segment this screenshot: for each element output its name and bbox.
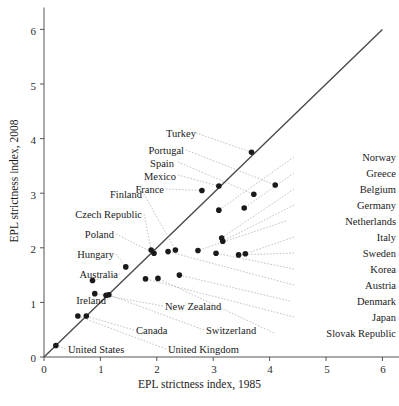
point-label-new-zealand: New Zealand <box>165 301 221 312</box>
data-point-belgium <box>219 235 225 241</box>
data-point-greece <box>241 205 247 211</box>
y-tick-5: 5 <box>18 80 36 92</box>
point-label-hungary: Hungary <box>14 249 114 260</box>
data-point-italy <box>243 251 249 257</box>
point-label-germany: Germany <box>296 200 396 211</box>
point-label-united-states: United States <box>68 344 124 355</box>
leader-line-greece <box>244 173 294 208</box>
y-tick-4: 4 <box>18 134 36 146</box>
point-label-slovak-republic: Slovak Republic <box>276 328 396 339</box>
point-label-finland: Finland <box>44 189 142 200</box>
x-tick-3: 3 <box>205 363 223 375</box>
point-label-sweden: Sweden <box>296 248 396 259</box>
point-label-mexico: Mexico <box>76 171 176 182</box>
point-label-canada: Canada <box>136 325 168 336</box>
leader-line-mexico <box>178 175 219 186</box>
leader-line-france <box>166 189 202 190</box>
data-point-sweden <box>236 252 242 258</box>
point-label-greece: Greece <box>296 168 396 179</box>
point-label-denmark: Denmark <box>292 296 396 307</box>
data-point-norway <box>216 207 222 213</box>
leader-line-denmark <box>179 275 290 301</box>
x-tick-4: 4 <box>261 363 279 375</box>
data-point-hungary <box>123 264 129 270</box>
point-label-norway: Norway <box>296 152 396 163</box>
leader-line-korea <box>216 253 294 269</box>
data-point-austria <box>165 249 171 255</box>
data-point-korea <box>213 250 219 256</box>
data-point-united-kingdom <box>75 313 81 319</box>
leader-line-italy <box>245 237 294 254</box>
point-label-portugal: Portugal <box>76 145 184 156</box>
x-tick-0: 0 <box>35 363 53 375</box>
data-point-japan <box>143 276 149 282</box>
point-label-switzerland: Switzerland <box>206 325 256 336</box>
data-point-slovak-republic <box>155 276 161 282</box>
data-point-denmark <box>177 272 183 278</box>
point-label-italy: Italy <box>296 232 396 243</box>
x-tick-5: 5 <box>318 363 336 375</box>
data-point-czech-republic <box>148 247 154 253</box>
point-label-turkey: Turkey <box>96 128 196 139</box>
leader-line-austria <box>168 252 294 285</box>
data-point-switzerland <box>106 292 112 298</box>
x-tick-2: 2 <box>148 363 166 375</box>
data-point-netherlands <box>195 248 201 254</box>
point-label-japan: Japan <box>296 312 396 323</box>
x-tick-6: 6 <box>374 363 392 375</box>
point-label-czech-republic: Czech Republic <box>30 209 142 220</box>
point-label-poland: Poland <box>18 229 114 240</box>
data-point-finland <box>173 247 179 253</box>
point-label-austria: Austria <box>296 280 396 291</box>
point-label-spain: Spain <box>76 158 174 169</box>
leader-line-turkey <box>196 133 252 152</box>
data-point-france <box>199 188 205 194</box>
leader-line-norway <box>219 157 294 210</box>
data-point-canada <box>84 313 90 319</box>
point-label-ireland: Ireland <box>14 295 106 306</box>
point-label-australia: Australia <box>14 269 118 280</box>
data-point-portugal <box>272 182 278 188</box>
x-axis-title: EPL strictness index, 1985 <box>0 378 399 390</box>
leader-line-czech-republic <box>144 214 151 250</box>
y-tick-0: 0 <box>18 352 36 364</box>
leader-line-canada <box>86 316 134 330</box>
point-label-united-kingdom: United Kingdom <box>168 344 239 355</box>
y-tick-3: 3 <box>18 189 36 201</box>
leader-line-netherlands <box>198 221 286 251</box>
leader-line-finland <box>144 194 175 250</box>
data-point-united-states <box>53 343 59 349</box>
point-label-netherlands: Netherlands <box>288 216 396 227</box>
point-label-belgium: Belgium <box>296 184 396 195</box>
y-tick-6: 6 <box>18 25 36 37</box>
leader-line-spain <box>178 162 254 194</box>
data-point-spain <box>251 191 257 197</box>
data-point-turkey <box>249 149 255 155</box>
x-tick-1: 1 <box>92 363 110 375</box>
data-point-mexico <box>216 183 222 189</box>
leader-line-germany <box>223 205 294 241</box>
scatter-chart: 0 1 2 3 4 5 6 0 1 2 3 4 5 6 EPL strictne… <box>0 0 399 406</box>
point-label-korea: Korea <box>296 264 396 275</box>
